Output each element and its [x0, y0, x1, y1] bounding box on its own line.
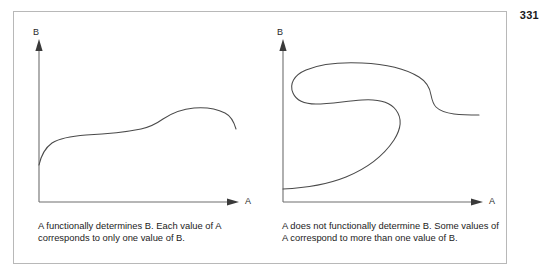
y-axis-label-left: B: [33, 27, 39, 37]
figure-container: 331 A functionally determines B. Each va…: [0, 0, 547, 277]
panel-functional: A functionally determines B. Each value …: [14, 12, 264, 263]
panel-nonfunctional: A does not functionally determine B. Som…: [264, 12, 508, 263]
curve-nonfunctional: [283, 63, 479, 189]
caption-nonfunctional: A does not functionally determine B. Som…: [282, 220, 500, 243]
x-axis-label-left: A: [245, 196, 251, 206]
x-axis-arrowhead: [471, 198, 483, 205]
x-axis-label-right: A: [489, 196, 495, 206]
y-axis-arrowhead: [35, 39, 42, 51]
figure-frame: A functionally determines B. Each value …: [13, 11, 507, 264]
curve-functional: [39, 108, 236, 165]
y-axis-arrowhead: [279, 39, 286, 51]
page-number: 331: [520, 9, 539, 21]
x-axis-arrowhead: [227, 198, 239, 205]
y-axis-label-right: B: [277, 27, 283, 37]
caption-functional: A functionally determines B. Each value …: [38, 220, 253, 243]
